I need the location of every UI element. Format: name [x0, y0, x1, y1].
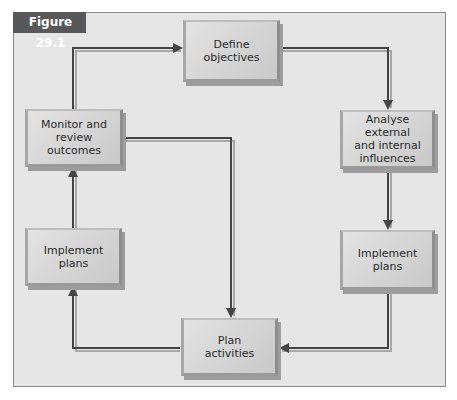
arrow-monitor-to-plan — [124, 138, 231, 316]
node-plan-activities: Plan activities — [181, 318, 278, 376]
arrow-define-to-analyse — [281, 48, 388, 108]
node-analyse-influences: Analyse external and internal influences — [340, 110, 435, 169]
node-implement-plans-left: Implement plans — [25, 228, 122, 286]
node-label: Plan activities — [205, 334, 255, 360]
node-define-objectives: Define objectives — [183, 20, 280, 82]
node-label: Implement plans — [358, 247, 418, 273]
node-label: Implement plans — [44, 244, 104, 270]
node-label: Monitor and review outcomes — [28, 118, 120, 157]
node-label: Define objectives — [204, 38, 260, 64]
arrow-monitor-to-define — [73, 48, 181, 109]
arrow-implement-right-to-plan — [281, 292, 388, 348]
figure-label: Figure 29.1 — [13, 12, 86, 33]
node-label: Analyse external and internal influences — [343, 113, 432, 165]
node-monitor-review: Monitor and review outcomes — [25, 109, 123, 167]
node-implement-plans-right: Implement plans — [340, 230, 435, 290]
arrow-plan-to-implement-left — [73, 288, 180, 348]
